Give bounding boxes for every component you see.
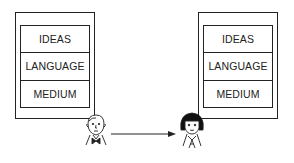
figures-and-arrow [0, 0, 294, 163]
woman-receiver-icon [181, 113, 204, 148]
arrow-icon [111, 131, 176, 137]
man-sender-icon [86, 115, 106, 145]
